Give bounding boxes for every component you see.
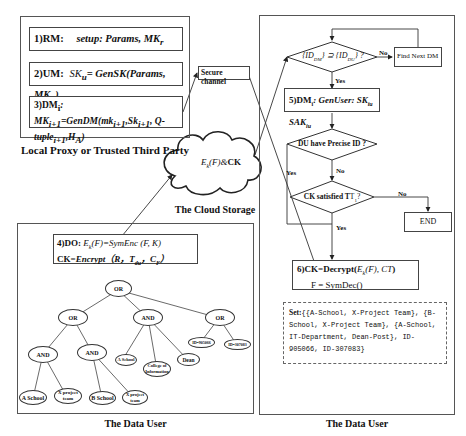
local-proxy-caption: Local Proxy or Trusted Third Party <box>20 144 190 156</box>
tree-leaf-x-project-team-1: X project team <box>54 388 82 404</box>
cloud-storage-caption: The Cloud Storage <box>160 204 270 215</box>
tree-node-and-mid: AND <box>133 309 163 326</box>
decision2-text: DU have Precise ID ? <box>290 139 374 148</box>
step4-do-box: 4)DO: Ek(F)=SymEnc (F, K) CK=Encrypt（R，T… <box>53 234 198 264</box>
tree-leaf-x-project-team-2: X project team <box>122 390 148 405</box>
decision3-no-label: No <box>398 190 407 198</box>
tree-node-root-or: OR <box>105 280 132 297</box>
tree-node-and-2: AND <box>77 344 107 361</box>
step1-rm-box: 1)RM: setup: Params, MKr <box>29 27 183 51</box>
step6-ck-box: 6)CK=Decrypt(Ek(F), CT) F = SymDec() <box>292 260 419 290</box>
tree-leaf-a-school: A School <box>19 390 47 405</box>
tree-leaf-a-school-mid: A School <box>115 354 137 366</box>
data-user-right-caption: The Data User <box>259 418 455 429</box>
decision3-yes-label: Yes <box>336 224 346 232</box>
step3-dm-box: 3)DMi: MKi+1=GenDM(mki+1,Ski+1, Q- tuple… <box>29 96 183 128</box>
step5-dm-box: 5)DMi: GenUser: SKiu SAKiu <box>284 88 380 112</box>
tree-node-or-left: OR <box>58 309 88 326</box>
find-next-dm-box: Find Next DM <box>394 47 442 67</box>
set-box: Set:{{A-School, X-Project Team}, {B-Scho… <box>283 302 447 364</box>
step3-line1: 3)DMi: MKi+1=GenDM(mki+1,Ski+1, Q- <box>34 99 178 131</box>
tree-leaf-dean: Dean <box>177 353 200 366</box>
step2-label: 2)UM: <box>34 68 64 79</box>
step1-formula: setup: Params, MKr <box>76 33 163 44</box>
cloud-content: Ek(F)&CK <box>186 157 256 169</box>
tree-node-or-right: OR <box>205 309 235 326</box>
data-user-left-caption: The Data User <box>17 418 254 429</box>
step6-line2: F = SymDec() <box>297 279 414 291</box>
set-content: {{A-School, X-Project Team}, {B-School, … <box>289 309 436 353</box>
step1-label: 1)RM: <box>34 33 64 44</box>
secure-channel-box: Secure channel <box>198 66 250 80</box>
tree-leaf-id-905066: ID=905066 <box>188 337 215 348</box>
tree-node-and-1: AND <box>28 346 58 363</box>
decision2-yes-label: Yes <box>286 169 296 177</box>
decision1-text: {IDDM} ⊇ {IDDU} ? <box>297 51 369 62</box>
decision1-yes-label: Yes <box>335 77 345 85</box>
step4-line2: CK=Encrypt（R，Tdu，CF） <box>57 253 194 269</box>
step2-um-box: 2)UM: SKu= GenSK(Params, MKu) <box>29 62 183 86</box>
step4-line1: 4)DO: Ek(F)=SymEnc (F, K) <box>57 237 194 253</box>
step6-line1: 6)CK=Decrypt(Ek(F), CT) <box>297 263 414 279</box>
end-box: END <box>404 212 452 232</box>
set-label: Set: <box>289 308 302 317</box>
tree-leaf-b-school: B School <box>89 391 116 405</box>
decision3-text: CK satisfied TT1? <box>298 192 366 203</box>
tree-leaf-college-of-information: College of Information <box>143 361 171 377</box>
tree-leaf-id-307083: ID=307083 <box>224 339 251 350</box>
decision1-no-label: No <box>379 49 388 57</box>
decision2-no-label: No <box>336 167 345 175</box>
